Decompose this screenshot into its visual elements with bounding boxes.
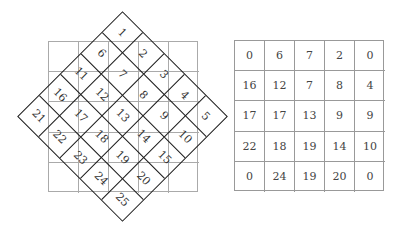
table-cell: 9 (355, 101, 385, 131)
table-cell: 22 (235, 132, 265, 162)
table-cell: 12 (265, 71, 295, 101)
table-cell: 24 (265, 162, 295, 192)
table-cell: 14 (325, 132, 355, 162)
table-cell: 2 (325, 41, 355, 71)
table-cell: 0 (355, 162, 385, 192)
table-cell: 13 (295, 101, 325, 131)
table-cell: 0 (355, 41, 385, 71)
table-cell: 19 (295, 132, 325, 162)
table-cell: 16 (235, 71, 265, 101)
table-cell: 20 (325, 162, 355, 192)
table-cell: 19 (295, 162, 325, 192)
result-table: 06720161278417171399221819141002419200 (234, 40, 384, 191)
table-cell: 17 (265, 101, 295, 131)
table-cell: 10 (355, 132, 385, 162)
table-cell: 18 (265, 132, 295, 162)
table-cell: 0 (235, 41, 265, 71)
table-cell: 4 (355, 71, 385, 101)
table-cell: 8 (325, 71, 355, 101)
table-cell: 17 (235, 101, 265, 131)
table-cell: 9 (325, 101, 355, 131)
table-cell: 7 (295, 41, 325, 71)
table-cell: 7 (295, 71, 325, 101)
table-cell: 6 (265, 41, 295, 71)
table-cell: 0 (235, 162, 265, 192)
